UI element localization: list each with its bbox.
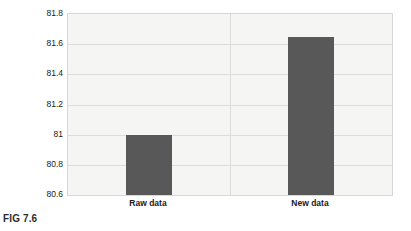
- y-axis: 81.881.681.481.28180.880.6: [0, 13, 63, 196]
- y-axis-tick-label: 81.4: [3, 69, 63, 78]
- y-axis-tick-label: 80.6: [3, 190, 63, 199]
- gridline-vertical: [230, 14, 231, 195]
- y-axis-tick-label: 81: [3, 129, 63, 138]
- y-axis-tick-label: 81.2: [3, 99, 63, 108]
- figure-caption: FIG 7.6: [3, 212, 37, 224]
- y-axis-tick-label: 81.8: [3, 9, 63, 18]
- figure: 81.881.681.481.28180.880.6 Raw dataNew d…: [0, 0, 411, 231]
- x-axis-tick-label: Raw data: [129, 198, 166, 208]
- plot-area: [67, 13, 393, 196]
- x-axis: Raw dataNew data: [67, 198, 393, 214]
- y-axis-tick-label: 80.8: [3, 160, 63, 169]
- bar: [288, 37, 334, 195]
- x-axis-tick-label: New data: [291, 198, 328, 208]
- bar: [126, 135, 172, 195]
- y-axis-tick-label: 81.6: [3, 39, 63, 48]
